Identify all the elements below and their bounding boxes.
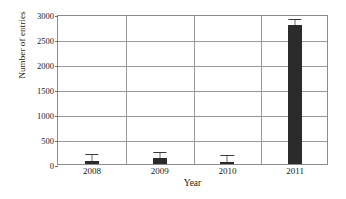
bar-2008[interactable] xyxy=(85,161,99,164)
plot-area: 0500100015002000250030002008200920102011 xyxy=(57,15,328,165)
y-tick-mark xyxy=(55,141,58,142)
y-tick-label: 2500 xyxy=(14,37,54,46)
error-bar-cap xyxy=(85,154,98,155)
y-tick-label: 2000 xyxy=(14,62,54,71)
x-tick-label-2010: 2010 xyxy=(218,167,236,176)
gridline-vertical xyxy=(194,16,195,164)
y-tick-label: 0 xyxy=(14,162,54,171)
x-axis-title: Year xyxy=(57,178,328,188)
bar-2010[interactable] xyxy=(220,162,234,165)
error-bar-cap xyxy=(153,152,166,153)
gridline-horizontal xyxy=(58,66,327,67)
gridline-horizontal xyxy=(58,41,327,42)
gridline-vertical xyxy=(126,16,127,164)
error-bar-cap xyxy=(221,155,234,156)
y-tick-mark xyxy=(55,116,58,117)
gridline-horizontal xyxy=(58,116,327,117)
y-tick-mark xyxy=(55,91,58,92)
y-tick-label: 500 xyxy=(14,137,54,146)
y-tick-label: 1000 xyxy=(14,112,54,121)
y-tick-mark xyxy=(55,166,58,167)
error-bar-cap xyxy=(288,19,301,20)
bar-2009[interactable] xyxy=(153,158,167,164)
bar-chart-figure: Number of entries 0500100015002000250030… xyxy=(0,0,346,199)
y-tick-label: 1500 xyxy=(14,87,54,96)
y-tick-mark xyxy=(55,66,58,67)
y-tick-label: 3000 xyxy=(14,12,54,21)
gridline-horizontal xyxy=(58,91,327,92)
y-tick-mark xyxy=(55,16,58,17)
x-tick-label-2008: 2008 xyxy=(83,167,101,176)
gridline-vertical xyxy=(261,16,262,164)
bar-2011[interactable] xyxy=(288,25,302,165)
x-tick-label-2009: 2009 xyxy=(151,167,169,176)
gridline-horizontal xyxy=(58,141,327,142)
y-tick-mark xyxy=(55,41,58,42)
x-tick-label-2011: 2011 xyxy=(286,167,304,176)
